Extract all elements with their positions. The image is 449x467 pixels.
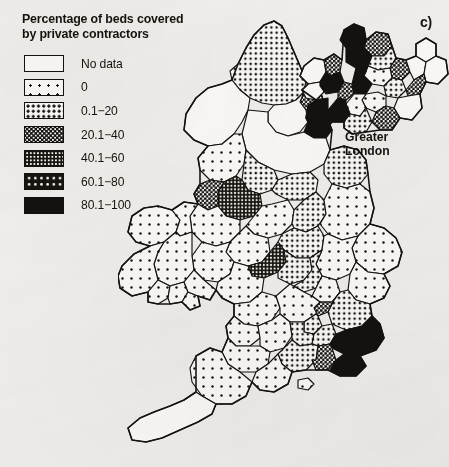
legend-swatch-0-20	[24, 102, 64, 119]
inset-label-greater-london: Greater London	[345, 130, 390, 158]
legend-swatch-zero	[24, 79, 64, 96]
choropleth-map	[118, 4, 449, 464]
map-svg	[118, 4, 449, 464]
legend-swatch-80-100	[24, 197, 64, 214]
region-isle-of-wight	[298, 378, 314, 390]
legend-label: 0	[81, 80, 88, 94]
legend-swatch-60-80	[24, 173, 64, 190]
legend-label: 0.1−20	[81, 104, 118, 118]
legend-label: No data	[81, 57, 123, 71]
inset-label-line-1: Greater	[345, 130, 390, 144]
legend-swatch-40-60	[24, 150, 64, 167]
legend-swatch-no-data	[24, 55, 64, 72]
figure-panel: Percentage of beds covered by private co…	[0, 0, 449, 467]
inset-label-line-2: London	[345, 144, 390, 158]
map-inset-greater-london	[300, 24, 448, 134]
legend-swatch-20-40	[24, 126, 64, 143]
